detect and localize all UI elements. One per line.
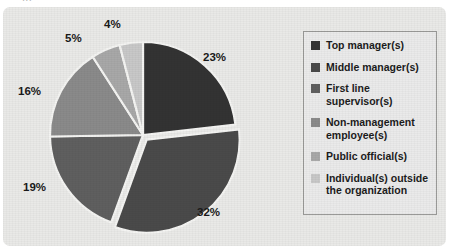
chart-frame: 23% 32% 19% 16% 5% 4% Top manager(s) Mid… xyxy=(3,7,446,246)
legend-item-top-manager[interactable]: Top manager(s) xyxy=(311,39,430,52)
legend-label: Public official(s) xyxy=(326,150,407,163)
legend-label: Non-management employee(s) xyxy=(326,116,430,141)
legend-label: Individual(s) outside the organization xyxy=(326,172,430,197)
cropped-title-strip: ... xyxy=(0,0,449,7)
data-label-first-line-supervisor: 19% xyxy=(23,181,46,193)
legend-swatch-icon xyxy=(311,118,320,127)
legend-item-first-line-supervisor[interactable]: First line supervisor(s) xyxy=(311,82,430,107)
legend-item-non-management-employee[interactable]: Non-management employee(s) xyxy=(311,116,430,141)
legend-item-public-official[interactable]: Public official(s) xyxy=(311,150,430,163)
legend-item-individuals-outside-organization[interactable]: Individual(s) outside the organization xyxy=(311,172,430,197)
cropped-title-text: ... xyxy=(22,0,32,3)
legend-swatch-icon xyxy=(311,63,320,72)
data-label-individuals-outside: 4% xyxy=(104,18,121,30)
pie-slices xyxy=(50,42,240,233)
legend-item-middle-manager[interactable]: Middle manager(s) xyxy=(311,61,430,74)
chart-legend: Top manager(s) Middle manager(s) First l… xyxy=(303,31,437,215)
data-label-non-management: 16% xyxy=(18,85,41,97)
legend-label: First line supervisor(s) xyxy=(326,82,430,107)
chart-screenshot: ... 23% 32% 19% 16% 5% 4% Top manager(s)… xyxy=(0,0,449,250)
legend-swatch-icon xyxy=(311,84,320,93)
legend-label: Middle manager(s) xyxy=(326,61,419,74)
data-label-public-official: 5% xyxy=(65,32,82,44)
legend-swatch-icon xyxy=(311,152,320,161)
pie-plot-area: 23% 32% 19% 16% 5% 4% xyxy=(3,7,303,246)
data-label-top-manager: 23% xyxy=(203,51,226,63)
data-label-middle-manager: 32% xyxy=(197,206,220,218)
pie-chart-svg xyxy=(3,7,303,246)
legend-label: Top manager(s) xyxy=(326,39,404,52)
legend-swatch-icon xyxy=(311,174,320,183)
legend-swatch-icon xyxy=(311,41,320,50)
